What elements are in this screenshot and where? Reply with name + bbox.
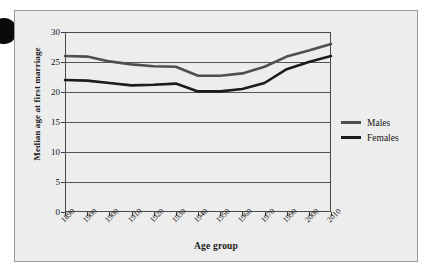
y-tick-label: 25: [51, 57, 60, 67]
legend-swatch-icon: [341, 121, 361, 124]
legend-item-males[interactable]: Males: [341, 115, 421, 130]
plot-area: 051015202530 189019001900191019201930194…: [65, 32, 331, 212]
y-tick-label: 10: [51, 147, 60, 157]
legend-label: Females: [367, 133, 399, 143]
y-axis-title: Median age at first marriage: [32, 24, 42, 184]
legend-item-females[interactable]: Females: [341, 130, 421, 145]
y-tick-label: 5: [56, 177, 61, 187]
x-axis-title: Age group: [15, 241, 417, 251]
chart-figure: Median age at first marriage 05101520253…: [14, 10, 418, 262]
legend-label: Males: [367, 118, 390, 128]
legend-swatch-icon: [341, 136, 361, 139]
series-line-males: [65, 44, 331, 76]
chart-page: Median age at first marriage 05101520253…: [0, 0, 432, 276]
y-tick-label: 0: [56, 207, 61, 217]
y-tick-label: 15: [51, 117, 60, 127]
data-lines: [65, 32, 331, 212]
chart-legend: MalesFemales: [341, 115, 421, 145]
y-tick-label: 30: [51, 27, 60, 37]
y-tick-label: 20: [51, 87, 60, 97]
